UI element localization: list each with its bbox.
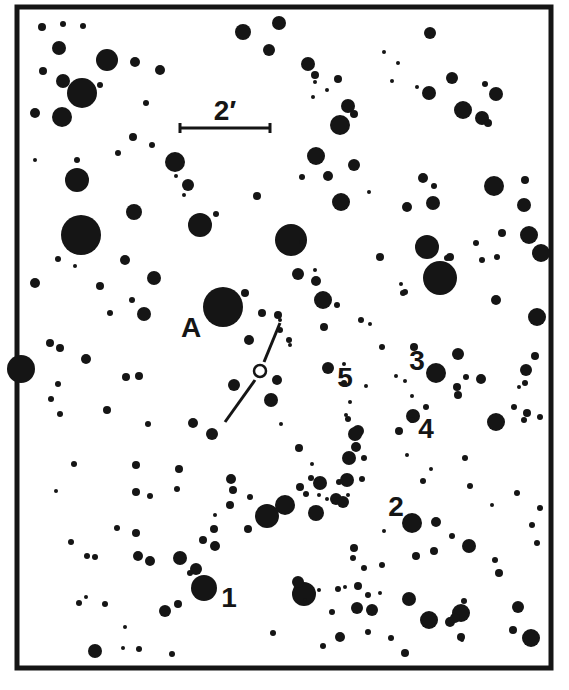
star xyxy=(361,455,367,461)
star xyxy=(247,494,253,500)
star xyxy=(288,343,292,347)
star xyxy=(452,348,464,360)
star xyxy=(188,418,198,428)
star xyxy=(39,67,47,75)
star xyxy=(303,491,309,497)
star xyxy=(343,585,347,589)
star xyxy=(461,598,467,604)
star xyxy=(400,290,406,296)
star xyxy=(67,78,97,108)
star xyxy=(203,287,243,327)
star xyxy=(241,289,249,297)
star xyxy=(235,24,251,40)
star xyxy=(537,505,543,511)
star xyxy=(382,50,386,54)
star xyxy=(129,133,137,141)
star xyxy=(311,71,319,79)
star xyxy=(57,411,63,417)
star xyxy=(33,158,37,162)
star xyxy=(307,147,325,165)
star xyxy=(351,602,363,614)
star xyxy=(378,591,382,595)
star xyxy=(68,539,74,545)
star xyxy=(244,335,254,345)
target-circle xyxy=(254,365,266,377)
star xyxy=(460,638,464,642)
star xyxy=(521,417,527,423)
star xyxy=(350,544,358,552)
star xyxy=(48,396,54,402)
star xyxy=(130,57,140,67)
star xyxy=(132,461,140,469)
star xyxy=(494,254,500,260)
star xyxy=(365,629,371,635)
star xyxy=(226,501,234,509)
star xyxy=(191,575,217,601)
star xyxy=(426,196,440,210)
star xyxy=(311,276,321,286)
star xyxy=(292,576,304,588)
star xyxy=(96,49,118,71)
star xyxy=(521,176,529,184)
star xyxy=(310,462,314,466)
star xyxy=(511,404,517,410)
star-label-1: 1 xyxy=(221,582,237,613)
star xyxy=(376,253,384,261)
star xyxy=(467,483,473,489)
scale-bar-label: 2′ xyxy=(214,95,237,126)
star xyxy=(487,413,505,431)
star xyxy=(317,493,321,497)
star xyxy=(46,339,54,347)
star xyxy=(299,174,305,180)
star xyxy=(81,354,91,364)
star xyxy=(379,562,385,568)
star xyxy=(272,16,286,30)
star xyxy=(299,240,303,244)
star xyxy=(412,552,420,560)
star xyxy=(454,101,472,119)
star xyxy=(429,467,433,471)
star xyxy=(395,427,403,435)
star xyxy=(453,383,461,391)
star xyxy=(147,271,161,285)
star xyxy=(334,302,340,308)
star xyxy=(107,310,113,316)
star xyxy=(303,598,307,602)
star xyxy=(491,295,501,305)
star-field xyxy=(7,16,550,658)
star xyxy=(399,282,403,286)
star xyxy=(115,150,121,156)
star xyxy=(420,611,438,629)
star xyxy=(335,586,341,592)
star xyxy=(388,635,394,641)
star xyxy=(403,379,407,383)
star xyxy=(173,551,187,565)
star xyxy=(351,442,361,452)
star xyxy=(92,554,98,560)
star xyxy=(364,384,368,388)
star xyxy=(213,211,219,217)
star xyxy=(402,592,416,606)
star xyxy=(258,309,266,317)
star xyxy=(348,427,362,441)
star xyxy=(270,630,276,636)
star xyxy=(174,486,180,492)
star xyxy=(431,517,441,527)
star xyxy=(332,193,350,211)
star xyxy=(229,486,237,494)
star xyxy=(490,503,494,507)
star xyxy=(199,536,207,544)
star xyxy=(379,344,385,350)
star xyxy=(462,539,476,553)
star xyxy=(426,363,446,383)
star xyxy=(84,595,88,599)
star xyxy=(210,525,218,533)
star xyxy=(320,323,328,331)
star xyxy=(325,497,329,501)
star xyxy=(182,193,186,197)
star xyxy=(188,213,212,237)
star xyxy=(350,555,356,561)
star xyxy=(514,490,520,496)
star xyxy=(522,380,528,386)
star xyxy=(96,282,104,290)
